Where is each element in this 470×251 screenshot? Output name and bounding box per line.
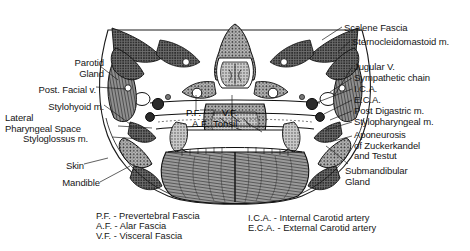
leader-mandible — [100, 166, 130, 182]
vertebral-artery-left — [192, 88, 202, 98]
label-post-digastric-muscle: Post Digastric m. — [354, 106, 424, 117]
label-styloglossus-muscle: Styloglossus m. — [23, 134, 88, 145]
label-stylohyoid-muscle: Stylohyoid m. — [0, 102, 104, 113]
label-prevertebral-fascia-abbrev: P.F. — [186, 108, 201, 118]
legend-internal-carotid-artery: I.C.A. - Internal Carotid artery — [248, 213, 369, 223]
label-aponeurosis-zuckerkandel-testut: Aponeurosis of Zuckerkandel and Testut — [354, 130, 420, 162]
legend-external-carotid-artery: E.C.A. - External Carotid artery — [248, 223, 376, 233]
oropharyngeal-airway — [175, 130, 295, 155]
label-eca: E.C.A. — [354, 95, 381, 106]
label-skin: Skin — [0, 161, 84, 172]
post-facial-vein-left — [125, 85, 131, 91]
legend-visceral-fascia: V.F. - Visceral Fascia — [96, 231, 182, 241]
label-mandible: Mandible — [0, 178, 100, 189]
leader-skin — [84, 158, 108, 164]
legend-alar-fascia: A.F. - Alar Fascia — [96, 221, 166, 231]
label-alar-fascia-abbrev: A.F. — [192, 119, 208, 129]
label-sympathetic-chain: Sympathetic chain — [354, 73, 430, 84]
label-sternocleidomastoid-muscle: Sternocleidomastoid m. — [352, 37, 449, 48]
vertebral-artery-right — [268, 88, 278, 98]
legend-prevertebral-fascia: P.F. - Prevertebral Fascia — [96, 211, 200, 221]
label-parotid-gland: Parotid Gland — [0, 58, 104, 79]
label-post-facial-vein: Post. Facial v. — [0, 85, 96, 96]
ica-right — [306, 98, 317, 109]
label-ica: I.C.A. — [354, 84, 377, 95]
sympathetic-chain-right — [299, 94, 304, 99]
label-scalene-fascia: Scalene Fascia — [344, 23, 408, 34]
label-tonsil: Tonsil — [213, 119, 237, 129]
label-lateral-pharyngeal-space: Lateral Pharyngeal Space — [5, 113, 81, 134]
ica-left — [152, 98, 163, 109]
label-jugular-vein: Jugular V. — [354, 62, 395, 73]
label-stylopharyngeal-muscle: Stylopharyngeal m. — [354, 117, 434, 128]
eca-left — [146, 113, 155, 122]
label-submandibular-gland: Submandibular Gland — [345, 166, 408, 187]
eca-right — [316, 113, 325, 122]
label-visceral-fascia-abbrev: V.F. — [222, 108, 238, 118]
foramen-right — [281, 59, 288, 66]
sympathetic-chain-left — [165, 94, 170, 99]
foramen-left — [183, 59, 190, 66]
